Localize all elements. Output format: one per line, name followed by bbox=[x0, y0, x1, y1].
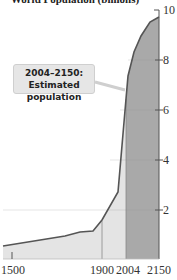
x-tick-2150: 2150 bbox=[147, 263, 171, 277]
callout-line-2: Estimated population bbox=[14, 79, 94, 103]
y-tick-10: 10 bbox=[163, 4, 175, 16]
estimated-population-callout: 2004–2150: Estimated population bbox=[13, 64, 95, 94]
x-tick-2004: 2004 bbox=[116, 263, 140, 277]
population-chart bbox=[0, 0, 177, 280]
x-tick-1500: 1500 bbox=[1, 263, 25, 277]
historical-area bbox=[3, 99, 126, 259]
estimated-area bbox=[126, 17, 159, 259]
callout-line-1: 2004–2150: bbox=[14, 67, 94, 79]
x-tick-1900: 1900 bbox=[90, 263, 114, 277]
y-tick-2: 2 bbox=[163, 204, 169, 216]
y-tick-8: 8 bbox=[163, 54, 169, 66]
y-tick-6: 6 bbox=[163, 104, 169, 116]
y-tick-4: 4 bbox=[163, 154, 169, 166]
